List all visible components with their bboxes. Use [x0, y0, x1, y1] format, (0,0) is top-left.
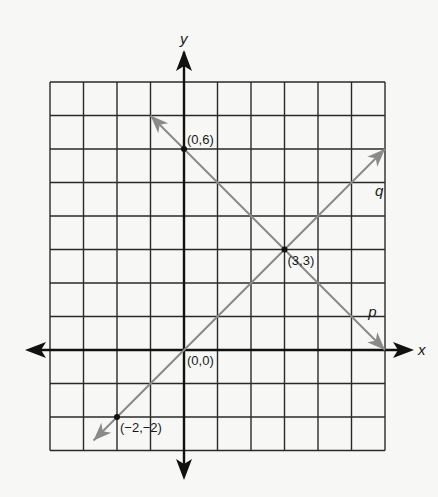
grid — [50, 82, 385, 451]
line-q — [94, 149, 385, 440]
line-label-p: p — [367, 303, 376, 320]
coordinate-plane: pq (0,6)(3,3)(0,0)(−2,−2) x y — [0, 0, 438, 497]
line-label-q: q — [375, 182, 384, 199]
lines: pq — [94, 116, 385, 441]
point-label: (−2,−2) — [120, 420, 162, 435]
point-label: (0,0) — [187, 353, 214, 368]
point-label: (0,6) — [187, 132, 214, 147]
x-axis-label: x — [417, 341, 426, 358]
point-label: (3,3) — [288, 253, 315, 268]
y-axis-label: y — [179, 30, 189, 47]
